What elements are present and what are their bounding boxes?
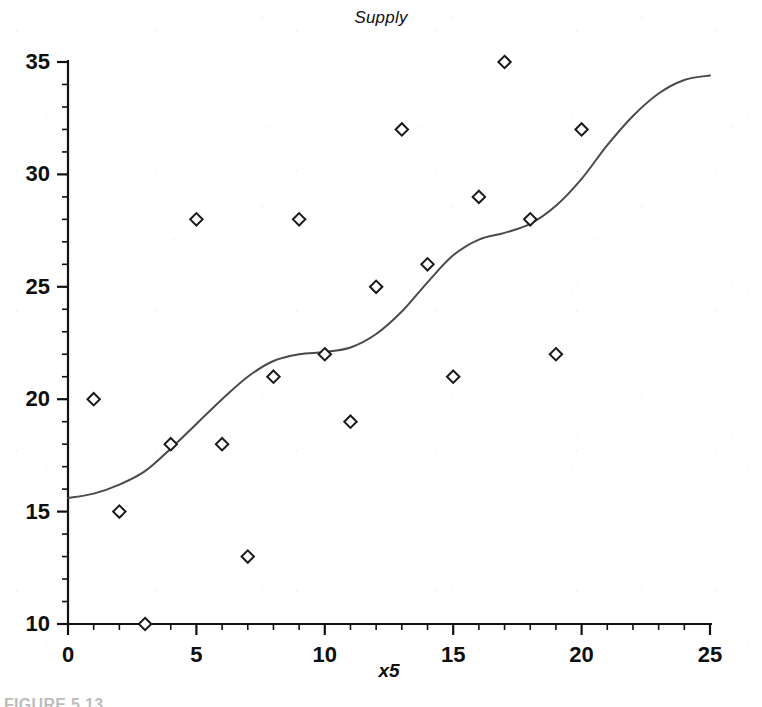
x-axis-title: x5: [289, 660, 489, 682]
data-point-marker: [242, 550, 254, 562]
data-point-marker: [550, 348, 562, 360]
data-point-marker: [447, 371, 459, 383]
data-point-marker: [216, 438, 228, 450]
data-point-marker: [267, 371, 279, 383]
data-point-marker: [396, 123, 408, 135]
data-point-marker: [190, 213, 202, 225]
axes-layer: [57, 60, 712, 635]
data-point-marker: [87, 393, 99, 405]
y-axis-tick-label: 25: [0, 274, 50, 300]
y-axis-tick-label: 15: [0, 499, 50, 525]
data-points-layer: [87, 56, 587, 630]
data-point-marker: [421, 258, 433, 270]
data-point-marker: [319, 348, 331, 360]
data-point-marker: [473, 191, 485, 203]
x-axis-tick-label: 20: [569, 642, 593, 668]
data-point-marker: [344, 415, 356, 427]
data-point-marker: [370, 281, 382, 293]
data-point-marker: [139, 618, 151, 630]
data-point-marker: [498, 56, 510, 68]
y-axis-tick-label: 20: [0, 386, 50, 412]
y-axis-tick-label: 30: [0, 161, 50, 187]
data-point-marker: [113, 505, 125, 517]
x-axis-tick-label: 0: [62, 642, 74, 668]
figure-caption: FIGURE 5.13: [4, 697, 103, 707]
data-point-marker: [524, 213, 536, 225]
data-point-marker: [165, 438, 177, 450]
fitted-curve-path: [68, 75, 710, 498]
fitted-curve-layer: [68, 75, 710, 498]
data-point-marker: [575, 123, 587, 135]
x-axis-tick-label: 25: [698, 642, 722, 668]
x-axis-tick-label: 5: [190, 642, 202, 668]
data-point-marker: [293, 213, 305, 225]
y-axis-tick-label: 35: [0, 49, 50, 75]
y-axis-tick-label: 10: [0, 611, 50, 637]
